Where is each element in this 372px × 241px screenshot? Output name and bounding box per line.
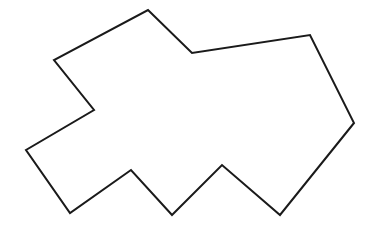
irregular-polygon [26,10,354,215]
diagram-canvas [0,0,372,241]
